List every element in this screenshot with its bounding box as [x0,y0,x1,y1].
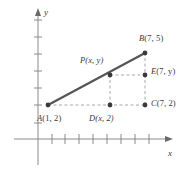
marker-point-e [143,73,148,78]
label-point-d-coords: (x, 2) [95,113,114,123]
label-point-p-coords: (x, y) [85,55,103,65]
label-point-c: C(7, 2) [151,98,176,108]
label-point-e: E(7, y) [151,66,175,76]
label-point-b-coords: (7, 5) [144,33,163,43]
marker-point-a [46,103,51,108]
label-point-p: P(x, y) [80,55,103,65]
marker-point-d [108,103,113,108]
label-point-e-coords: (7, y) [156,66,175,76]
label-point-a: A(1, 2) [37,113,61,123]
label-point-c-coords: (7, 2) [157,98,176,108]
x-axis-arrowhead [165,136,173,142]
label-point-d: D(x, 2) [89,113,114,123]
axes-group [14,8,173,165]
marker-point-p [108,73,113,78]
y-axis-label: y [44,7,48,17]
y-axis-arrowhead [35,8,41,16]
marker-point-c [143,103,148,108]
label-point-a-coords: (1, 2) [42,113,61,123]
x-axis-label: x [168,148,172,158]
figure-canvas [0,0,189,172]
marker-point-b [143,51,148,56]
label-point-b: B(7, 5) [139,33,163,43]
coordinate-geometry-figure: B(7, 5) E(7, y) C(7, 2) P(x, y) A(1, 2) … [0,0,189,172]
